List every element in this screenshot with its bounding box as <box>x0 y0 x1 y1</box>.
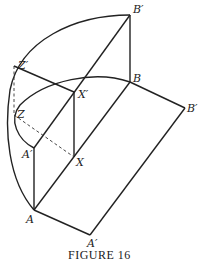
label-a: A <box>25 213 34 226</box>
edge-b-a <box>34 82 130 210</box>
label-b: B <box>132 72 141 85</box>
edge-b-bprime-right <box>130 82 185 108</box>
label-z: Z <box>16 108 25 121</box>
figure-16-diagram: B′ B B′ Z′ X′ Z A′ X A A′ FIGURE 16 <box>0 0 203 262</box>
edge-a-aprime-bottom <box>34 210 90 235</box>
label-b-prime-top: B′ <box>132 3 144 16</box>
figure-caption: FIGURE 16 <box>68 248 131 262</box>
inner-arc <box>15 77 130 148</box>
edge-bprime-right-aprime-bottom <box>90 108 185 235</box>
label-z-prime: Z′ <box>17 59 29 72</box>
label-x-prime: X′ <box>77 88 89 101</box>
label-x: X <box>75 156 85 169</box>
label-a-prime-inner: A′ <box>21 148 33 161</box>
outer-arc <box>8 15 130 210</box>
label-b-prime-right: B′ <box>186 102 198 115</box>
